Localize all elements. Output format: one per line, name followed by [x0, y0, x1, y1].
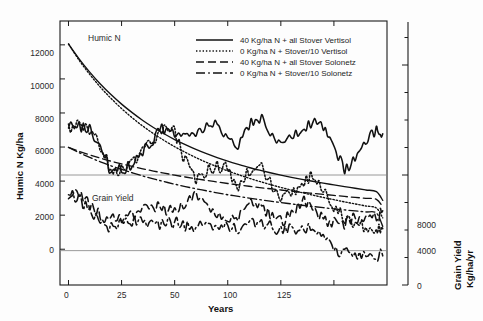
- series-line-grain_yield-solid: [68, 115, 382, 174]
- series-line-humic_n-solid: [68, 44, 382, 200]
- y-right-axis-title-line1: Grain Yield: [452, 240, 463, 290]
- annotation-grain-yield: Grain Yield: [92, 193, 134, 203]
- legend-label-2: 40 Kg/ha N + all Stover Solonetz: [240, 58, 356, 67]
- chart-figure: 12000 10000 8000 6000 4000 2000 0 Humic …: [0, 0, 483, 321]
- x-tick-100: 100: [223, 290, 237, 300]
- y-left-axis-title: Humic N Kg/ha: [14, 132, 25, 200]
- x-tick-50: 50: [170, 290, 179, 300]
- y-right-tick-0: 0: [417, 281, 422, 291]
- x-tick-125: 125: [277, 290, 291, 300]
- series-line-grain_yield-dotted: [68, 120, 382, 233]
- y-left-tick-10000: 10000: [18, 81, 54, 91]
- y-right-tick-4000: 4000: [417, 246, 436, 256]
- x-tick-25: 25: [117, 290, 126, 300]
- y-right-tick-8000: 8000: [417, 220, 436, 230]
- y-left-tick-12000: 12000: [18, 48, 54, 58]
- y-right-axis-title-line2: Kg/ha/yr: [464, 250, 475, 288]
- y-left-tick-8000: 8000: [18, 114, 54, 124]
- legend-label-1: 0 Kg/ha N + Stover/10 Vertisol: [240, 47, 347, 56]
- legend-label-3: 0 Kg/ha N + Stover/10 Solonetz: [240, 69, 352, 78]
- legend-label-0: 40 Kg/ha N + all Stover Vertisol: [240, 36, 351, 45]
- annotation-humic-n: Humic N: [88, 33, 121, 43]
- series-line-humic_n-dashdot: [68, 147, 382, 226]
- y-left-tick-2000: 2000: [18, 212, 54, 222]
- x-axis-title: Years: [208, 303, 233, 314]
- x-tick-0: 0: [64, 290, 69, 300]
- y-left-tick-0: 0: [18, 245, 54, 255]
